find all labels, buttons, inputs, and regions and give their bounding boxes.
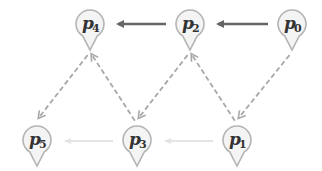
node-subscript: 3: [139, 138, 147, 151]
node-p2: p2: [176, 10, 204, 50]
node-subscript: 0: [294, 22, 302, 35]
path-diagram: p0p1p2p3p4p5: [0, 0, 322, 171]
node-subscript: 2: [192, 22, 200, 35]
node-p1: p1: [223, 126, 251, 166]
node-subscript: 5: [39, 138, 47, 151]
node-subscript: 1: [239, 138, 247, 151]
node-p3: p3: [123, 126, 151, 166]
edge-p4-to-p5: [38, 55, 87, 118]
node-p0: p0: [278, 10, 306, 50]
node-p5: p5: [23, 126, 51, 166]
node-p4: p4: [76, 10, 104, 50]
edge-p3-to-p4: [91, 54, 135, 121]
edge-p1-to-p2: [191, 54, 235, 121]
edge-p2-to-p3: [138, 55, 187, 118]
node-subscript: 4: [92, 22, 100, 35]
edge-p0-to-p1: [238, 55, 289, 118]
